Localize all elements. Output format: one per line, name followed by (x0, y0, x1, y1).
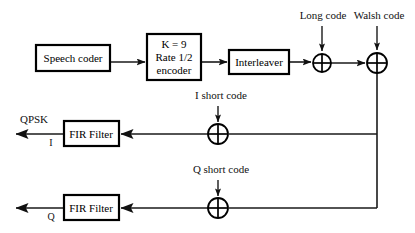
block-encoder-label-line3: encoder (157, 64, 192, 76)
block-diagram-svg: Speech coder K = 9 Rate 1/2 encoder Inte… (0, 0, 415, 233)
adder-long-code (313, 54, 331, 72)
block-diagram-canvas: Speech coder K = 9 Rate 1/2 encoder Inte… (0, 0, 415, 233)
block-fir-filter-q-label: FIR Filter (69, 202, 113, 214)
block-speech-coder-label: Speech coder (44, 52, 103, 64)
adder-q-short-code (208, 198, 228, 218)
label-i-short-code: I short code (195, 89, 247, 101)
label-q-short-code: Q short code (193, 163, 249, 175)
adder-i-short-code (208, 124, 228, 144)
label-long-code: Long code (300, 9, 347, 21)
label-q-branch: Q (47, 211, 55, 222)
block-fir-filter-i-label: FIR Filter (69, 128, 113, 140)
label-walsh-code: Walsh code (354, 9, 405, 21)
block-interleaver-label: Interleaver (235, 56, 283, 68)
block-encoder-label-line1: K = 9 (161, 38, 187, 50)
block-encoder-label-line2: Rate 1/2 (156, 51, 193, 63)
label-i-branch: I (49, 137, 52, 148)
label-qpsk-output: QPSK (20, 113, 48, 125)
adder-walsh-code (367, 53, 387, 73)
